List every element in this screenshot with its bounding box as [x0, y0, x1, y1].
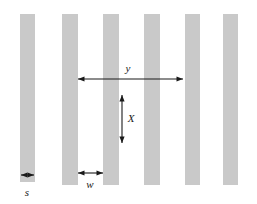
width-label: s [25, 186, 29, 198]
bar-2 [62, 14, 78, 185]
period-label: y [125, 62, 131, 74]
gap-label: w [86, 178, 94, 190]
bar-1 [20, 14, 35, 182]
figure-canvas: y X w s [0, 0, 257, 204]
depth-label: X [127, 112, 136, 124]
bar-4 [144, 14, 160, 185]
figure-background [0, 0, 257, 204]
bar-5 [185, 14, 200, 185]
bar-3 [103, 14, 119, 185]
bar-6 [223, 14, 238, 185]
grating-figure: y X w s [0, 0, 257, 204]
